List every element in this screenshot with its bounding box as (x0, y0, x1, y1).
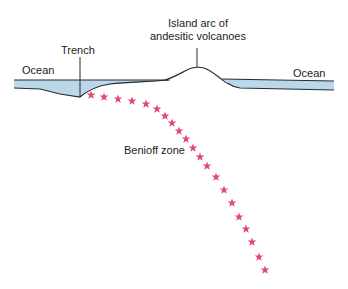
subduction-zone-diagram: Ocean Ocean Trench Island arc of andesit… (0, 0, 348, 289)
earthquake-star-icon (161, 111, 170, 119)
island-arc-profile (165, 67, 227, 83)
island-arc-label-line2: andesitic volcanoes (146, 30, 250, 43)
earthquake-star-icon (203, 161, 212, 169)
earthquake-star-icon (196, 152, 205, 160)
earthquake-star-icon (235, 212, 244, 220)
earthquake-star-icon (189, 143, 198, 151)
ocean-right-label: Ocean (293, 67, 325, 80)
earthquake-star-icon (128, 96, 137, 104)
benioff-zone-label: Benioff zone (124, 144, 185, 157)
earthquake-star-icon (153, 104, 162, 112)
earthquake-star-icon (175, 126, 184, 134)
earthquake-star-icon (114, 94, 123, 102)
earthquake-star-icon (100, 92, 109, 100)
earthquake-star-icon (142, 99, 151, 107)
earthquake-star-icon (242, 224, 251, 232)
island-arc-label-line1: Island arc of (146, 17, 250, 30)
earthquake-star-icon (182, 134, 191, 142)
island-arc-label: Island arc of andesitic volcanoes (146, 17, 250, 43)
earthquake-star-icon (228, 198, 237, 206)
ocean-left-label: Ocean (22, 64, 54, 77)
earthquake-star-icon (261, 265, 270, 273)
earthquake-star-icon (220, 185, 229, 193)
earthquake-star-icon (248, 237, 257, 245)
earthquake-star-icon (255, 252, 264, 260)
earthquake-star-icon (212, 172, 221, 180)
benioff-zone-earthquake-stars (87, 90, 270, 273)
earthquake-star-icon (168, 118, 177, 126)
trench-label: Trench (61, 44, 95, 57)
